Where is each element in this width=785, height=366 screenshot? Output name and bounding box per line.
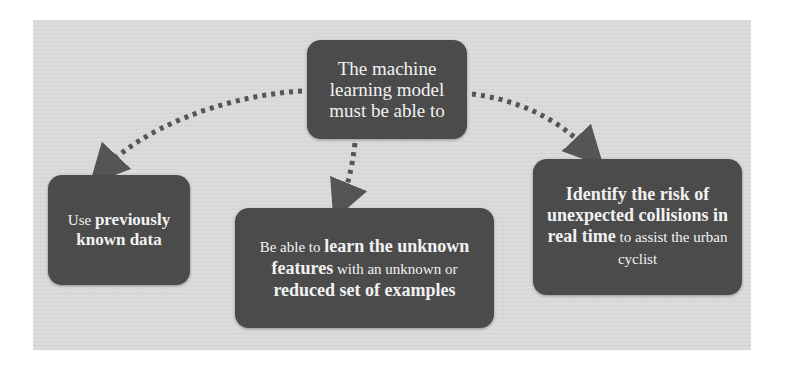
node-text-regular: with an unknown or	[333, 261, 457, 277]
root-node: The machine learning model must be able …	[307, 40, 467, 139]
arrow-root-to-right	[472, 94, 590, 152]
arrow-root-to-left	[103, 91, 302, 170]
child-node-learn-unknown-features: Be able to learn the unknown features wi…	[235, 208, 494, 328]
arrow-root-to-middle	[341, 143, 355, 202]
child-node-identify-collision-risk: Identify the risk of unexpected collisio…	[533, 159, 742, 295]
node-text-regular: to assist the urban cyclist	[616, 229, 728, 267]
root-node-text: The machine learning model must be able …	[315, 58, 459, 121]
node-text-regular: Use	[68, 212, 95, 228]
node-text-bold: reduced set of examples	[273, 280, 455, 300]
node-text-regular: Be able to	[260, 239, 325, 255]
child-node-previous-data: Use previously known data	[48, 175, 190, 285]
